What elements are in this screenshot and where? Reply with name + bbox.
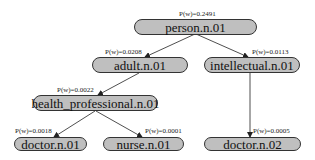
prob-label-nurse: P(w)=0.0001 [145,127,182,135]
prob-label-doctor2: P(w)=0.0005 [253,127,290,135]
node-person[interactable]: person.n.01 [134,19,257,35]
node-adult[interactable]: adult.n.01 [92,57,188,73]
node-intellectual[interactable]: intellectual.n.01 [204,57,300,73]
node-doctor2[interactable]: doctor.n.02 [204,137,301,151]
prob-label-intellectual: P(w)=0.0113 [252,48,289,56]
node-nurse[interactable]: nurse.n.01 [103,137,184,151]
edge-health-professional-doctor1 [54,111,95,137]
node-health-professional[interactable]: health_professional.n.01 [33,95,158,111]
edge-person-adult [145,34,195,57]
prob-label-health-professional: P(w)=0.0022 [57,86,94,94]
prob-label-person: P(w)=0.2491 [179,10,216,18]
prob-label-doctor1: P(w)=0.0018 [15,127,52,135]
edge-person-intellectual [196,34,248,57]
edge-health-professional-nurse [96,111,142,137]
prob-label-adult: P(w)=0.0208 [105,48,142,56]
node-doctor1[interactable]: doctor.n.01 [14,137,87,151]
edge-adult-health-professional [98,73,139,95]
